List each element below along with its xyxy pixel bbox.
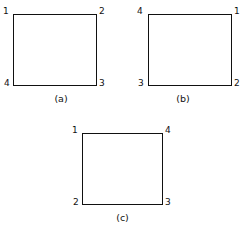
vertex-label-c-bottom-right: 3 <box>165 198 171 207</box>
square-outline-b <box>148 14 232 86</box>
vertex-label-c-top-right: 4 <box>165 126 171 135</box>
figure-panel-a: 1 2 3 4 (a) <box>0 0 122 115</box>
figure-panel-c: 1 4 3 2 (c) <box>60 115 185 231</box>
vertex-label-a-bottom-left: 4 <box>4 79 10 88</box>
vertex-label-c-top-left: 1 <box>72 126 78 135</box>
vertex-label-a-top-right: 2 <box>99 7 105 16</box>
panel-caption-a: (a) <box>0 93 122 104</box>
vertex-label-b-top-left: 4 <box>137 7 143 16</box>
panel-caption-b: (b) <box>122 93 244 104</box>
figure-panel-b: 4 1 2 3 (b) <box>122 0 244 115</box>
vertex-label-a-bottom-right: 3 <box>99 79 105 88</box>
panel-caption-c: (c) <box>60 212 185 223</box>
square-outline-a <box>13 14 97 86</box>
vertex-label-c-bottom-left: 2 <box>73 198 79 207</box>
vertex-label-b-bottom-right: 2 <box>234 79 240 88</box>
vertex-label-a-top-left: 1 <box>3 7 9 16</box>
vertex-label-b-top-right: 1 <box>234 7 240 16</box>
vertex-label-b-bottom-left: 3 <box>138 79 144 88</box>
figure-canvas: 1 2 3 4 (a) 4 1 2 3 (b) 1 4 3 2 (c) <box>0 0 244 231</box>
square-outline-c <box>82 133 163 205</box>
